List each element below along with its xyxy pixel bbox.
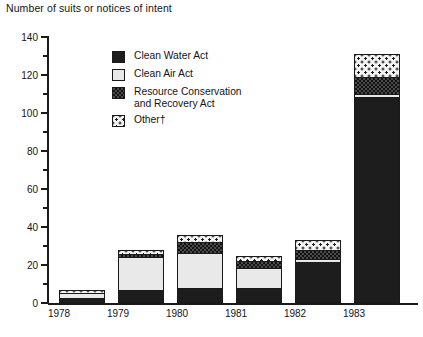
bar-1983[interactable] (354, 54, 400, 303)
y-tick-label-40: 40 (8, 222, 38, 233)
segment-clean-air-act-1980 (178, 254, 222, 289)
chart-legend: Clean Water Act Clean Air Act Resource C… (112, 50, 282, 132)
stacked-bar-chart: Number of suits or notices of intent 0 2… (0, 0, 423, 337)
y-tick-30 (43, 245, 47, 246)
open-dots-swatch-icon (112, 115, 125, 127)
bar-1978[interactable] (59, 290, 105, 303)
x-tick-label-1981: 1981 (206, 308, 266, 319)
x-tick-label-1980: 1980 (147, 308, 207, 319)
y-tick-10 (43, 283, 47, 284)
segment-clean-air-act-1981 (237, 269, 281, 289)
bar-1980[interactable] (177, 235, 223, 303)
segment-clean-water-act-1979 (119, 291, 163, 302)
legend-item-clean-water-act[interactable]: Clean Water Act (112, 50, 282, 63)
legend-item-rcra[interactable]: Resource Conservation and Recovery Act (112, 86, 282, 109)
solid-black-swatch-icon (112, 51, 125, 63)
x-tick-label-1979: 1979 (88, 308, 148, 319)
x-tick-label-1983: 1983 (324, 308, 384, 319)
x-tick-label-1978: 1978 (29, 308, 89, 319)
segment-rcra-1983 (355, 78, 399, 95)
segment-rcra-1980 (178, 243, 222, 254)
segment-rcra-1982 (296, 251, 340, 260)
bar-1982[interactable] (295, 240, 341, 303)
y-tick-70 (43, 169, 47, 170)
segment-other-1982 (296, 241, 340, 250)
y-tick-20 (41, 264, 47, 265)
y-tick-40 (41, 226, 47, 227)
y-tick-label-100: 100 (8, 108, 38, 119)
segment-clean-water-act-1982 (296, 263, 340, 302)
segment-clean-water-act-1983 (355, 98, 399, 302)
legend-item-clean-air-act[interactable]: Clean Air Act (112, 68, 282, 81)
segment-clean-water-act-1981 (237, 289, 281, 302)
y-tick-label-140: 140 (8, 32, 38, 43)
y-tick-label-0: 0 (8, 298, 38, 309)
legend-label-other: Other† (134, 114, 165, 126)
legend-item-other[interactable]: Other† (112, 114, 282, 127)
segment-other-1980 (178, 236, 222, 243)
x-axis-line (48, 303, 418, 305)
legend-label-clean-water-act: Clean Water Act (134, 50, 208, 62)
segment-rcra-1981 (237, 262, 281, 269)
light-stipple-swatch-icon (112, 69, 125, 81)
y-tick-0 (41, 302, 47, 303)
y-tick-label-60: 60 (8, 184, 38, 195)
y-tick-label-80: 80 (8, 146, 38, 157)
segment-clean-water-act-1978 (60, 299, 104, 302)
y-tick-60 (41, 188, 47, 189)
legend-label-clean-air-act: Clean Air Act (134, 68, 193, 80)
chart-axis-title: Number of suits or notices of intent (6, 2, 172, 14)
y-tick-130 (43, 55, 47, 56)
y-tick-label-120: 120 (8, 70, 38, 81)
x-tick-label-1982: 1982 (265, 308, 325, 319)
y-tick-100 (41, 112, 47, 113)
bar-1981[interactable] (236, 256, 282, 304)
y-tick-label-20: 20 (8, 260, 38, 271)
legend-label-rcra: Resource Conservation and Recovery Act (134, 86, 242, 109)
y-tick-90 (43, 131, 47, 132)
segment-clean-water-act-1980 (178, 289, 222, 302)
dense-checker-swatch-icon (112, 87, 125, 99)
bar-1979[interactable] (118, 250, 164, 303)
y-tick-120 (41, 74, 47, 75)
segment-other-1983 (355, 55, 399, 78)
segment-clean-air-act-1979 (119, 258, 163, 291)
y-tick-110 (43, 93, 47, 94)
y-tick-140 (41, 36, 47, 37)
y-tick-80 (41, 150, 47, 151)
y-tick-50 (43, 207, 47, 208)
